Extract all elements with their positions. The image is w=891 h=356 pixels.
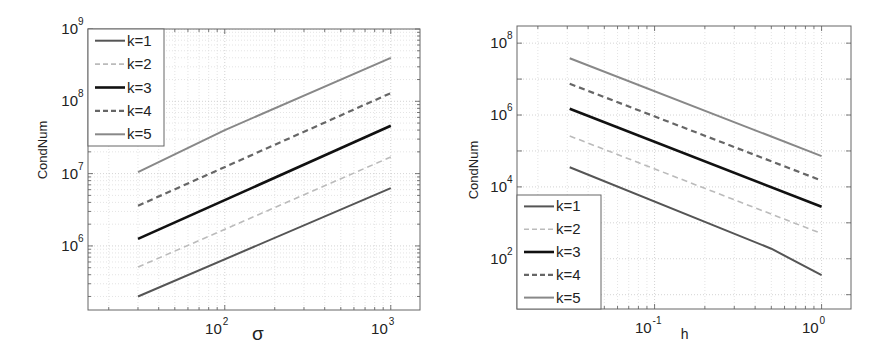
series-line-k4 — [570, 84, 822, 181]
y-tick-exponent: 6 — [507, 102, 513, 113]
y-tick-label: 10 — [490, 250, 507, 267]
x-tick-exponent: 0 — [820, 315, 826, 326]
y-tick-label: 10 — [61, 237, 78, 254]
y-tick-label: 10 — [61, 20, 78, 37]
x-tick-label: 10 — [802, 319, 819, 336]
y-tick-label: 10 — [61, 92, 78, 109]
figure: 102103106107108109σCondNumk=1k=2k=3k=4k=… — [0, 0, 891, 356]
series-line-k5 — [138, 58, 391, 172]
y-tick-exponent: 7 — [78, 161, 84, 172]
x-tick-label: 10 — [371, 320, 388, 337]
series-line-k4 — [138, 93, 391, 206]
y-tick-exponent: 6 — [78, 233, 84, 244]
legend-label: k=2 — [556, 220, 581, 237]
legend-label: k=5 — [556, 289, 581, 306]
chart-condnum-vs-sigma: 102103106107108109σCondNumk=1k=2k=3k=4k=… — [0, 0, 891, 356]
x-tick-exponent: 2 — [223, 316, 229, 327]
legend-label: k=2 — [127, 55, 152, 72]
y-tick-exponent: 8 — [78, 88, 84, 99]
y-tick-label: 10 — [490, 34, 507, 51]
series-line-k5 — [570, 58, 822, 156]
y-tick-label: 10 — [61, 165, 78, 182]
y-axis-label: CondNum — [35, 121, 50, 180]
legend-label: k=3 — [127, 79, 152, 96]
series-line-k1 — [138, 188, 391, 296]
series-line-k3 — [138, 126, 391, 239]
legend-label: k=5 — [127, 125, 152, 142]
series-lines — [570, 58, 822, 275]
y-tick-label: 10 — [490, 106, 507, 123]
legend-label: k=3 — [556, 243, 581, 260]
legend: k=1k=2k=3k=4k=5 — [88, 29, 164, 146]
x-tick-exponent: -1 — [653, 315, 662, 326]
y-tick-exponent: 4 — [507, 174, 513, 185]
x-tick-exponent: 3 — [389, 316, 395, 327]
plot-h: 10-1100102104106108hCondNumk=1k=2k=3k=4k… — [466, 26, 851, 342]
x-axis-label: h — [681, 326, 689, 342]
y-axis-label: CondNum — [466, 141, 481, 200]
y-tick-label: 10 — [490, 178, 507, 195]
x-axis-label: σ — [252, 323, 264, 344]
y-tick-exponent: 8 — [507, 30, 513, 41]
legend-label: k=1 — [556, 197, 581, 214]
y-tick-exponent: 2 — [507, 246, 513, 257]
legend-label: k=4 — [127, 102, 152, 119]
legend-label: k=4 — [556, 266, 581, 283]
plot-sigma: 102103106107108109σCondNumk=1k=2k=3k=4k=… — [35, 16, 420, 344]
series-line-k3 — [570, 109, 822, 207]
legend-label: k=1 — [127, 32, 152, 49]
y-tick-exponent: 9 — [78, 16, 84, 27]
x-tick-label: 10 — [635, 319, 652, 336]
legend: k=1k=2k=3k=4k=5 — [517, 195, 601, 309]
x-tick-label: 10 — [205, 320, 222, 337]
